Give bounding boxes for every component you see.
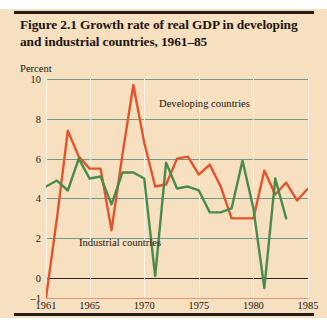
- series-label-industrial: Industrial countries: [79, 237, 161, 248]
- page-margin-top: [0, 0, 327, 9]
- y-tick-label-6: 6: [36, 153, 41, 164]
- x-tick-label-1965: 1965: [79, 300, 100, 311]
- series-label-developing: Developing countries: [159, 98, 250, 109]
- page-margin-bottom: [0, 318, 327, 336]
- vertical-gridline-1985: [308, 79, 309, 298]
- series-lines: [46, 79, 308, 298]
- y-tick-label-10: 10: [31, 74, 41, 85]
- x-tick-label-1980: 1980: [243, 300, 264, 311]
- y-tick-label-8: 8: [36, 113, 41, 124]
- x-tick-label-1975: 1975: [188, 300, 209, 311]
- x-tick-label-1961: 1961: [36, 300, 57, 311]
- series-line-developing: [46, 85, 308, 298]
- figure-rule-top: [14, 11, 314, 14]
- figure-title: Figure 2.1 Growth rate of real GDP in de…: [20, 17, 312, 51]
- y-axis-unit-label: Percent: [20, 63, 52, 74]
- gridline--1: [46, 298, 308, 299]
- y-tick-label-2: 2: [36, 233, 41, 244]
- x-tick-label-1985: 1985: [298, 300, 319, 311]
- figure-container: Figure 2.1 Growth rate of real GDP in de…: [0, 0, 327, 336]
- plot-area: 1086420–1 196119651970197519801985 Devel…: [46, 79, 308, 298]
- x-tick-label-1970: 1970: [134, 300, 155, 311]
- figure-rule-bottom: [14, 313, 314, 316]
- y-tick-label-0: 0: [36, 273, 41, 284]
- series-line-industrial: [46, 159, 286, 288]
- y-tick-label-4: 4: [36, 193, 41, 204]
